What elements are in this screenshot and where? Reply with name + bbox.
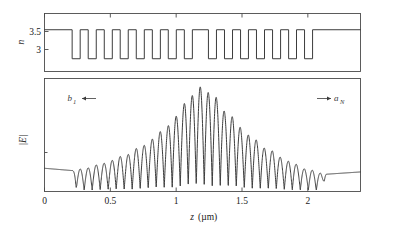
bottom-panel <box>45 79 361 192</box>
annotation-aN: a N <box>317 93 345 105</box>
figure-svg: 3.5 3 n |E| b 1 <box>0 0 399 232</box>
top-y-axis-title: n <box>16 39 26 44</box>
x-tick-label-0: 0 <box>42 196 47 206</box>
x-tick-label-4: 2 <box>305 196 310 206</box>
figure-container: 3.5 3 n |E| b 1 <box>0 0 399 232</box>
x-tick-label-3: 1.5 <box>236 196 248 206</box>
top-y-tick-label-0: 3.5 <box>29 27 41 37</box>
bottom-y-axis-title: |E| <box>18 134 28 145</box>
x-axis-title-unit: (µm) <box>198 212 217 223</box>
annotation-aN-symbol: a <box>334 93 339 103</box>
annotation-aN-subscript: N <box>339 98 345 105</box>
field-magnitude-curve <box>45 87 361 190</box>
x-tick-label-2: 1 <box>174 196 179 206</box>
x-axis-title: z (µm) <box>189 212 217 223</box>
refractive-index-curve <box>45 30 361 59</box>
top-y-tick-label-1: 3 <box>36 45 41 55</box>
top-panel <box>45 14 361 72</box>
annotation-b1: b 1 <box>68 93 97 105</box>
x-tick-label-1: 0.5 <box>104 196 116 206</box>
left-arrow-icon <box>82 96 96 100</box>
x-axis-title-variable: z <box>189 212 194 222</box>
top-panel-frame <box>45 14 361 72</box>
right-arrow-icon <box>317 96 331 100</box>
annotation-b1-symbol: b <box>68 93 73 103</box>
x-axis-tick-labels: 00.511.52 <box>42 196 310 206</box>
top-panel-y-ticks <box>45 32 49 50</box>
top-panel-x-ticks <box>45 14 308 18</box>
annotation-b1-subscript: 1 <box>73 98 76 105</box>
